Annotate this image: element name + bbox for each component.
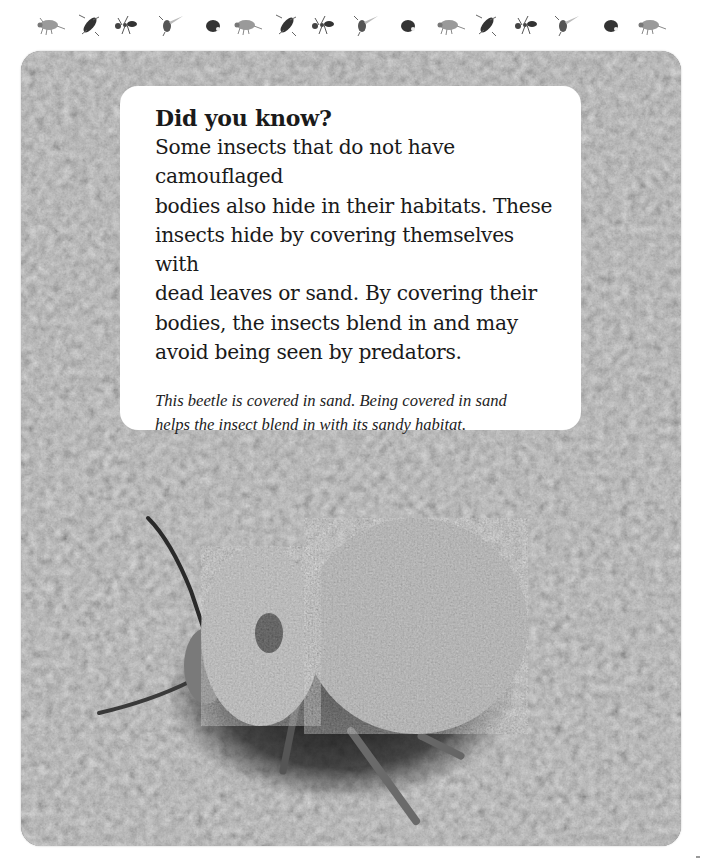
body-line: bodies, the insects blend in and may bbox=[155, 311, 518, 335]
body-line: bodies also hide in their habitats. Thes… bbox=[155, 194, 552, 218]
body-line: insects hide by covering themselves with bbox=[155, 223, 514, 276]
beetle-photo: Did you know? Some insects that do not h… bbox=[21, 51, 681, 846]
fly-icon bbox=[551, 12, 581, 38]
did-you-know-card: Did you know? Some insects that do not h… bbox=[120, 86, 581, 430]
photo-caption: This beetle is covered in sand. Being co… bbox=[155, 389, 561, 437]
wasp-icon bbox=[75, 12, 105, 38]
caption-line: helps the insect blend in with its sandy… bbox=[155, 415, 466, 434]
card-heading: Did you know? bbox=[155, 104, 561, 133]
body-line: Some insects that do not have camouflage… bbox=[155, 135, 455, 188]
ant-icon bbox=[510, 12, 540, 38]
beetle-icon bbox=[435, 12, 465, 38]
ladybug-icon bbox=[393, 12, 423, 38]
ant-icon bbox=[110, 12, 140, 38]
fly-icon bbox=[350, 12, 380, 38]
page-corner-mark bbox=[696, 856, 700, 858]
caption-line: This beetle is covered in sand. Being co… bbox=[155, 391, 507, 410]
card-body-text: Some insects that do not have camouflage… bbox=[155, 133, 561, 367]
beetle-icon bbox=[232, 12, 262, 38]
fly-icon bbox=[155, 12, 185, 38]
ladybug-icon bbox=[198, 12, 228, 38]
ant-icon bbox=[307, 12, 337, 38]
body-line: dead leaves or sand. By covering their bbox=[155, 281, 537, 305]
wasp-icon bbox=[272, 12, 302, 38]
insect-decorative-border bbox=[0, 0, 702, 50]
ladybug-icon bbox=[596, 12, 626, 38]
beetle-icon bbox=[35, 12, 65, 38]
beetle-icon bbox=[636, 12, 666, 38]
wasp-icon bbox=[472, 12, 502, 38]
body-line: avoid being seen by predators. bbox=[155, 340, 462, 364]
